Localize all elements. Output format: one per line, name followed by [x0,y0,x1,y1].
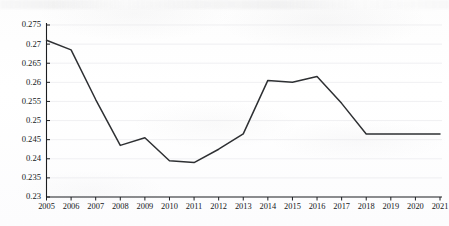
x-tick-label: 2010 [161,202,178,211]
y-tick-label: 0.255 [22,96,41,106]
y-tick-label: 0.275 [22,19,41,29]
x-tick-label: 2006 [63,202,80,211]
y-tick-label: 0.23 [26,191,41,201]
x-axis-tick-labels: 2005200620072008200920102011201220132014… [38,202,448,211]
line-chart: 0.2750.270.2650.260.2550.250.2450.240.23… [0,0,449,226]
y-tick-label: 0.24 [26,153,42,163]
y-tick-label: 0.235 [22,172,41,182]
x-tick-label: 2007 [87,202,104,211]
x-tick-label: 2008 [112,202,129,211]
y-tick-label: 0.26 [26,77,42,87]
x-tick-label: 2020 [407,202,424,211]
chart-canvas: 0.2750.270.2650.260.2550.250.2450.240.23… [0,0,449,226]
y-tick-label: 0.245 [22,134,41,144]
x-tick-label: 2009 [137,202,154,211]
x-tick-label: 2012 [210,202,227,211]
x-tick-label: 2019 [382,202,399,211]
x-tick-label: 2011 [186,202,202,211]
x-tick-label: 2015 [284,202,301,211]
y-tick-label: 0.27 [26,39,42,49]
gridlines-group [47,25,443,178]
x-tick-label: 2016 [309,202,326,211]
y-tick-label: 0.265 [22,58,41,68]
x-tick-label: 2017 [333,202,350,211]
x-tick-label: 2018 [358,202,375,211]
y-axis-tick-labels: 0.2750.270.2650.260.2550.250.2450.240.23… [22,19,42,201]
x-tick-label: 2013 [235,202,252,211]
y-tick-label: 0.25 [26,115,41,125]
x-tick-label: 2014 [259,202,277,211]
x-tick-label: 2005 [38,202,55,211]
x-tick-label: 2021 [432,202,449,211]
